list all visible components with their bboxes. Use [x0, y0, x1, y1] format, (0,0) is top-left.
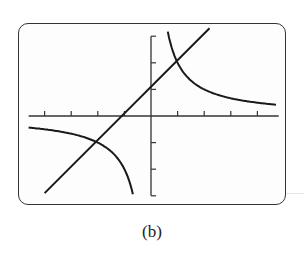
hyperbola-right-branch	[168, 32, 276, 105]
figure-caption: (b)	[0, 222, 304, 242]
line-series	[45, 28, 210, 193]
hyperbola-left-branch	[29, 128, 133, 195]
